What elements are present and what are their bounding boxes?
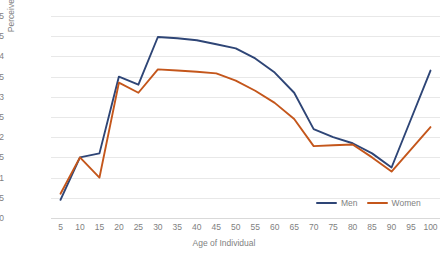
y-axis-tick-label: 2.5 <box>0 113 4 122</box>
y-axis-tick-label: 4.5 <box>0 32 4 41</box>
y-axis-tick-label: 0 <box>0 214 4 223</box>
y-axis-tick-label: 1 <box>0 174 4 183</box>
x-axis-title: Age of Individual <box>0 238 448 248</box>
y-axis-tick-label: 2 <box>0 133 4 142</box>
series-lines <box>51 16 440 218</box>
y-axis-tick-label: 1.5 <box>0 153 4 162</box>
legend-color-swatch <box>367 202 388 205</box>
chart-legend: MenWomen <box>316 198 421 208</box>
y-axis-title: Perceived Status <box>6 0 16 65</box>
y-axis-tick-label: 0.5 <box>0 194 4 203</box>
y-axis-tick-label: 3 <box>0 93 4 102</box>
gridline <box>51 218 440 219</box>
x-axis-tick-label: 100 <box>416 223 446 232</box>
y-axis-tick-label: 5 <box>0 12 4 21</box>
legend-color-swatch <box>316 202 337 205</box>
y-axis-tick-label: 3.5 <box>0 73 4 82</box>
y-axis-tick-label: 4 <box>0 52 4 61</box>
y-axis-title-container: Perceived Status <box>8 15 22 215</box>
legend-item-men[interactable]: Men <box>316 198 358 208</box>
plot-area <box>51 16 440 218</box>
legend-label: Men <box>341 198 358 208</box>
legend-item-women[interactable]: Women <box>367 198 421 208</box>
legend-label: Women <box>392 198 421 208</box>
line-chart: Perceived Status 00.511.522.533.544.55 5… <box>0 0 448 267</box>
series-line-men <box>61 37 431 200</box>
